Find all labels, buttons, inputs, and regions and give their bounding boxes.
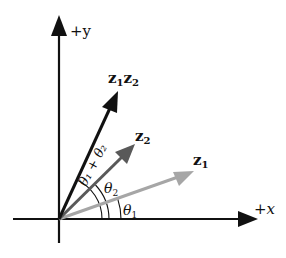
x-axis-label: +x [254, 200, 276, 218]
complex-multiplication-diagram: +y +x z1z2 z2 z1 θ1 θ2 θ₁ + θ₂ [0, 0, 286, 258]
diagram-svg: +y +x z1z2 z2 z1 θ1 θ2 θ₁ + θ₂ [0, 0, 286, 258]
label-z2: z2 [135, 127, 151, 146]
label-theta1: θ1 [123, 202, 137, 220]
label-z1: z1 [193, 151, 209, 170]
label-z1z2: z1z2 [108, 69, 139, 88]
label-theta2: θ2 [104, 180, 118, 198]
y-axis-label: +y [70, 22, 92, 40]
arc-theta1 [118, 199, 121, 219]
